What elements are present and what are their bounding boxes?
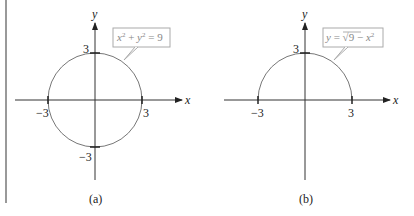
tick-label-x-neg: −3 [36, 106, 49, 120]
panel-b: y x 3 −3 3 y = √9 − x2 (b) [224, 7, 399, 206]
equation-callout: y = √9 − x2 [323, 28, 383, 60]
tick-label-x-neg: −3 [251, 106, 264, 120]
x-axis-label: x [392, 93, 399, 107]
panel-caption-b: (b) [299, 192, 313, 206]
x-axis-label: x [184, 93, 191, 107]
panel-caption-a: (a) [89, 192, 102, 206]
equation-text: y = √9 − x2 [325, 31, 375, 43]
y-axis-label: y [301, 7, 308, 21]
tick-label-y-neg: −3 [79, 150, 92, 164]
tick-label-y-pos: 3 [83, 42, 89, 56]
y-axis-label: y [91, 7, 98, 21]
equation-callout: x2 + y2 = 9 [113, 28, 170, 60]
panel-a: y x 3 −3 −3 3 x2 + y2 = 9 (a) [15, 7, 191, 206]
tick-label-y-pos: 3 [293, 42, 299, 56]
figure-canvas: y x 3 −3 −3 3 x2 + y2 = 9 (a) y x 3 −3 3 [0, 0, 414, 216]
tick-label-x-pos: 3 [348, 106, 354, 120]
tick-label-x-pos: 3 [143, 106, 149, 120]
